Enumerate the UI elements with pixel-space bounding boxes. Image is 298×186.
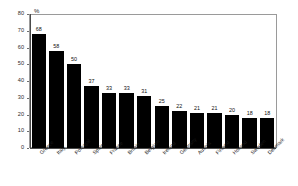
bar-value-label: 58 <box>45 44 67 49</box>
bar-value-label: 50 <box>63 57 85 62</box>
y-axis-tick-label: 10 <box>10 128 24 134</box>
bar-chart: % 01020304050607080 68585037333331252221… <box>0 0 298 186</box>
y-axis-tick-mark <box>27 98 29 99</box>
y-axis-tick-label: 50 <box>10 61 24 67</box>
bar-value-label: 18 <box>256 111 278 116</box>
bar <box>32 34 46 148</box>
y-axis-tick-mark <box>27 148 29 149</box>
bar-value-label: 37 <box>80 79 102 84</box>
y-axis-tick-label: 40 <box>10 78 24 84</box>
bar <box>119 93 133 148</box>
y-axis-tick-label: 70 <box>10 28 24 34</box>
y-axis-tick-label: 80 <box>10 11 24 17</box>
y-axis-tick-mark <box>27 115 29 116</box>
y-axis-tick-label: 60 <box>10 45 24 51</box>
y-axis-tick-mark <box>27 14 29 15</box>
y-axis-tick-label: 0 <box>10 145 24 151</box>
y-axis-tick-label: 20 <box>10 112 24 118</box>
y-axis-tick-mark <box>27 48 29 49</box>
bar <box>137 96 151 148</box>
y-axis-tick-mark <box>27 81 29 82</box>
bar <box>67 64 81 148</box>
y-axis-tick-mark <box>27 131 29 132</box>
bar <box>102 93 116 148</box>
y-axis-tick-mark <box>27 64 29 65</box>
bar <box>49 51 63 148</box>
category-label: Italy <box>56 145 66 155</box>
y-axis-tick-label: 30 <box>10 95 24 101</box>
bar-value-label: 31 <box>133 89 155 94</box>
bar-value-label: 68 <box>28 27 50 32</box>
